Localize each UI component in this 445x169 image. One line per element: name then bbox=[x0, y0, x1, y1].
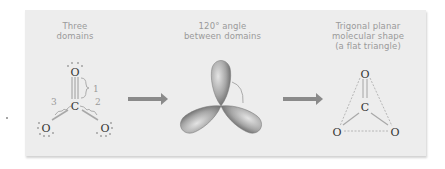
trigonal-orbitals-icon bbox=[177, 61, 266, 138]
domain-label-2: 2 bbox=[95, 97, 101, 107]
diagram-art: O C O O 1 2 3 bbox=[0, 0, 445, 169]
atom-c: C bbox=[361, 101, 369, 114]
atom-o-right: O bbox=[390, 126, 399, 139]
lewis-structure bbox=[52, 77, 98, 120]
arrow-right-icon bbox=[283, 93, 323, 105]
atom-o-right: O bbox=[100, 122, 109, 135]
atom-c: C bbox=[71, 100, 79, 113]
atom-o-left: O bbox=[332, 126, 341, 139]
atom-o-left: O bbox=[41, 122, 50, 135]
domain-label-3: 3 bbox=[51, 97, 57, 107]
domain-label-1: 1 bbox=[93, 84, 99, 94]
atom-o-top: O bbox=[70, 66, 79, 79]
arrow-right-icon bbox=[128, 93, 168, 105]
atom-o-top: O bbox=[360, 68, 369, 81]
